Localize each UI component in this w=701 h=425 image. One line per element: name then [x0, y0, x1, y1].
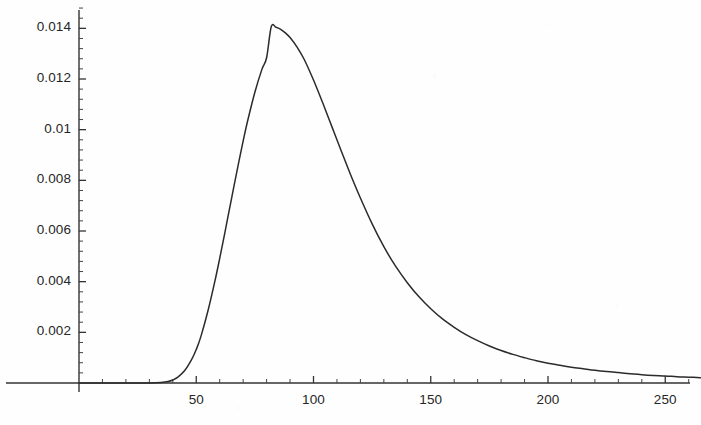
x-tick-label: 250 — [635, 392, 695, 407]
plot-canvas — [0, 0, 701, 425]
chart-page: 0.0020.0040.0060.0080.010.0120.014 50100… — [0, 0, 701, 425]
density-curve-line — [79, 24, 700, 383]
y-tick-label: 0.01 — [44, 121, 71, 136]
y-tick-label: 0.012 — [37, 70, 71, 85]
y-tick-label: 0.004 — [37, 273, 71, 288]
y-tick-label: 0.008 — [37, 171, 71, 186]
x-tick-label: 100 — [284, 392, 344, 407]
x-tick-label: 50 — [166, 392, 226, 407]
y-tick-label: 0.002 — [37, 323, 71, 338]
x-tick-label: 150 — [401, 392, 461, 407]
y-axis-major-ticks — [79, 28, 86, 332]
y-tick-label: 0.006 — [37, 222, 71, 237]
axis-lines — [6, 10, 690, 392]
x-tick-label: 200 — [518, 392, 578, 407]
y-tick-label: 0.014 — [37, 19, 71, 34]
